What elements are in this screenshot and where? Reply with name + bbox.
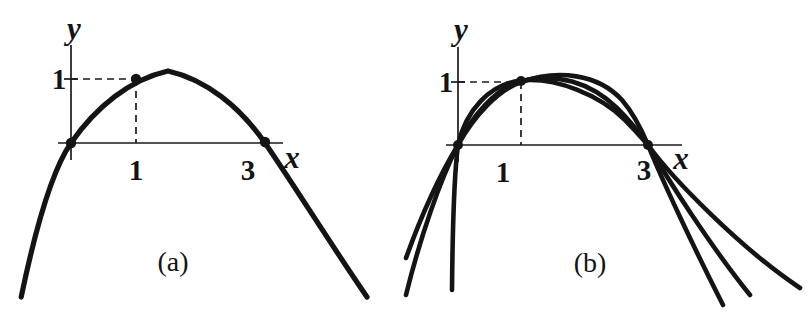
- x-tick-label-1-b: 1: [496, 158, 511, 187]
- parabola-curve-a: [21, 71, 367, 297]
- panel-caption-a: (a): [157, 248, 188, 276]
- panel-caption-b: (b): [574, 249, 607, 277]
- panel-a-canvas: [0, 0, 406, 315]
- root-origin-dot-b: [453, 140, 463, 150]
- x-axis-label-b: x: [673, 143, 689, 174]
- root-three-dot-a: [260, 137, 270, 147]
- y-axis-label-a: y: [67, 13, 81, 44]
- panel-b-canvas: [406, 0, 812, 315]
- y-axis-label-b: y: [454, 14, 468, 45]
- root-origin-dot-a: [66, 138, 76, 148]
- panel-b: y x 1 1 3 (b): [406, 0, 812, 315]
- y-tick-label-1-a: 1: [52, 65, 67, 94]
- x-axis-label-a: x: [284, 142, 300, 173]
- point-1-1-dot-b: [516, 76, 526, 86]
- figure-root: y x 1 1 3 (a) y: [0, 0, 812, 315]
- point-1-1-dot-a: [131, 74, 141, 84]
- panel-a: y x 1 1 3 (a): [0, 0, 406, 315]
- x-tick-label-3-a: 3: [241, 156, 256, 185]
- x-tick-label-3-b: 3: [637, 156, 652, 185]
- x-tick-label-1-a: 1: [129, 156, 144, 185]
- y-tick-label-1-b: 1: [439, 68, 454, 97]
- root-three-dot-b: [643, 140, 653, 150]
